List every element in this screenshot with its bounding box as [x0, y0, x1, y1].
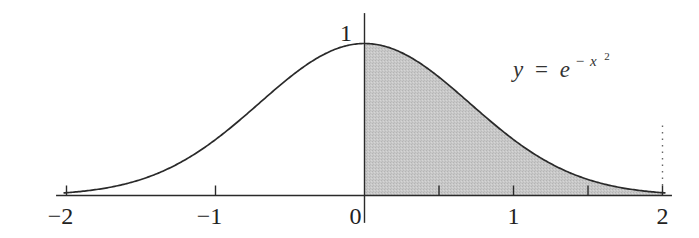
x-tick-label: −1	[197, 203, 223, 229]
gaussian-area-chart: −2−1012 1 y = e − x 2	[0, 0, 699, 238]
x-tick-label: 1	[508, 203, 520, 229]
x-axis-tick-labels: −2−1012	[48, 203, 669, 229]
x-tick-label: 2	[657, 203, 669, 229]
x-tick-label: −2	[48, 203, 74, 229]
y-tick-label-1: 1	[340, 20, 352, 46]
x-tick-label: 0	[350, 203, 362, 229]
function-label: y = e − x 2	[511, 46, 610, 82]
